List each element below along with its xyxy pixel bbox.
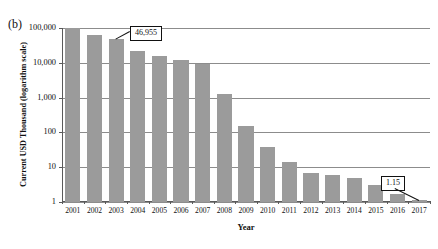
y-tick-label: 10 xyxy=(0,162,56,171)
figure-panel: (b) Current USD Thousand (logarithm scal… xyxy=(0,0,438,249)
y-tick-label: 100 xyxy=(0,127,56,136)
bar xyxy=(130,51,145,202)
value-callout: 46,955 xyxy=(130,26,162,41)
bar xyxy=(217,94,232,202)
y-axis-title: Current USD Thousand (logarithm scale) xyxy=(19,30,28,200)
x-tick-mark xyxy=(105,201,106,204)
x-tick-mark xyxy=(235,201,236,204)
x-tick-mark xyxy=(170,201,171,204)
y-tick-label: 1 xyxy=(0,197,56,206)
bar xyxy=(195,64,210,202)
x-tick-mark xyxy=(408,201,409,204)
y-tick-label: 1,000 xyxy=(0,93,56,102)
bar-series xyxy=(62,28,430,202)
x-tick-label: 2017 xyxy=(404,206,434,215)
bar xyxy=(303,173,318,202)
bar xyxy=(238,126,253,202)
bar xyxy=(390,194,405,202)
x-tick-mark xyxy=(127,201,128,204)
bar xyxy=(173,60,188,202)
bar xyxy=(325,175,340,202)
x-tick-mark xyxy=(62,201,63,204)
x-tick-mark xyxy=(84,201,85,204)
bar xyxy=(65,28,80,202)
x-tick-mark xyxy=(257,201,258,204)
bar xyxy=(109,39,124,202)
x-tick-mark xyxy=(300,201,301,204)
x-tick-mark xyxy=(278,201,279,204)
x-tick-mark xyxy=(430,201,431,204)
bar xyxy=(347,178,362,202)
bar xyxy=(412,200,427,202)
x-tick-mark xyxy=(149,201,150,204)
x-tick-mark xyxy=(387,201,388,204)
x-axis-title: Year xyxy=(62,222,430,232)
x-tick-mark xyxy=(192,201,193,204)
value-callout: 1.15 xyxy=(381,176,405,191)
x-tick-mark xyxy=(322,201,323,204)
x-tick-mark xyxy=(214,201,215,204)
y-tick-label: 10,000 xyxy=(0,58,56,67)
x-tick-mark xyxy=(365,201,366,204)
bar xyxy=(260,147,275,202)
x-tick-mark xyxy=(343,201,344,204)
gridline xyxy=(62,202,430,203)
bar xyxy=(282,162,297,202)
bar xyxy=(87,35,102,202)
bar xyxy=(152,56,167,202)
